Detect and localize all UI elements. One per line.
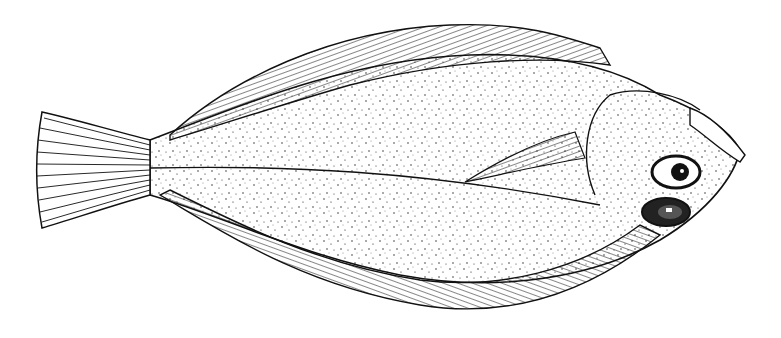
- caudal-fin: [37, 112, 150, 228]
- flatfish-drawing: [0, 0, 781, 338]
- fish-illustration: [0, 0, 781, 338]
